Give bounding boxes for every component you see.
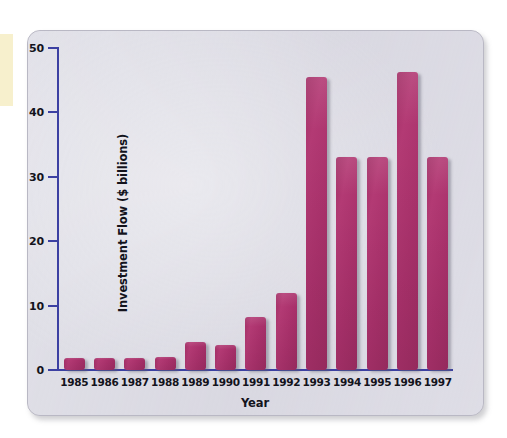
x-axis-tick-label: 1987 (121, 376, 149, 388)
y-axis-tick-label: 0 (37, 364, 44, 377)
x-axis-tick-label: 1991 (242, 376, 270, 388)
bar (155, 357, 176, 370)
bars-layer: 1985198619871988198919901991199219931994… (59, 48, 453, 370)
y-axis-tick-label: 30 (29, 170, 44, 183)
x-axis-tick-label: 1986 (90, 376, 118, 388)
plot-area: 01020304050 1985198619871988198919901991… (57, 48, 453, 370)
y-axis-tick (48, 176, 59, 178)
y-axis-tick-label: 10 (29, 299, 44, 312)
y-axis-tick (48, 111, 59, 113)
bar-group: 1989 (180, 48, 210, 370)
x-axis-tick-label: 1993 (303, 376, 331, 388)
bar-group: 1994 (332, 48, 362, 370)
x-axis-tick-label: 1985 (60, 376, 88, 388)
bar (427, 157, 448, 370)
bar (245, 317, 266, 370)
bar-group: 1991 (241, 48, 271, 370)
bar-group: 1988 (150, 48, 180, 370)
bar (336, 157, 357, 370)
x-axis-tick-label: 1995 (363, 376, 391, 388)
y-axis-tick (48, 305, 59, 307)
y-axis-tick-label: 20 (29, 235, 44, 248)
bar (367, 157, 388, 370)
bar (185, 342, 206, 370)
bar (397, 72, 418, 370)
bar (124, 358, 145, 370)
bar-group: 1997 (423, 48, 453, 370)
x-axis-tick-label: 1992 (272, 376, 300, 388)
x-axis-tick-label: 1994 (333, 376, 361, 388)
y-axis-tick (48, 369, 59, 371)
y-axis-tick-label: 40 (29, 106, 44, 119)
bar-group: 1996 (392, 48, 422, 370)
chart-figure-panel: Investment Flow ($ billions) 01020304050… (27, 30, 484, 416)
bar (64, 358, 85, 370)
bar (276, 293, 297, 370)
y-axis-tick (48, 47, 59, 49)
bar-group: 1995 (362, 48, 392, 370)
x-axis-tick-label: 1990 (212, 376, 240, 388)
bar (94, 358, 115, 370)
bar (215, 345, 236, 370)
x-axis-title: Year (57, 396, 453, 410)
y-axis-tick (48, 240, 59, 242)
bar-group: 1985 (59, 48, 89, 370)
bar-group: 1987 (120, 48, 150, 370)
bar (306, 77, 327, 370)
x-axis-tick-label: 1988 (151, 376, 179, 388)
y-axis-tick-label: 50 (29, 42, 44, 55)
x-axis-tick-label: 1997 (424, 376, 452, 388)
bar-group: 1993 (301, 48, 331, 370)
x-axis-tick-label: 1989 (181, 376, 209, 388)
page-edge-strip (0, 34, 13, 106)
bar-group: 1986 (89, 48, 119, 370)
bar-group: 1990 (211, 48, 241, 370)
bar-group: 1992 (271, 48, 301, 370)
x-axis-tick-label: 1996 (394, 376, 422, 388)
